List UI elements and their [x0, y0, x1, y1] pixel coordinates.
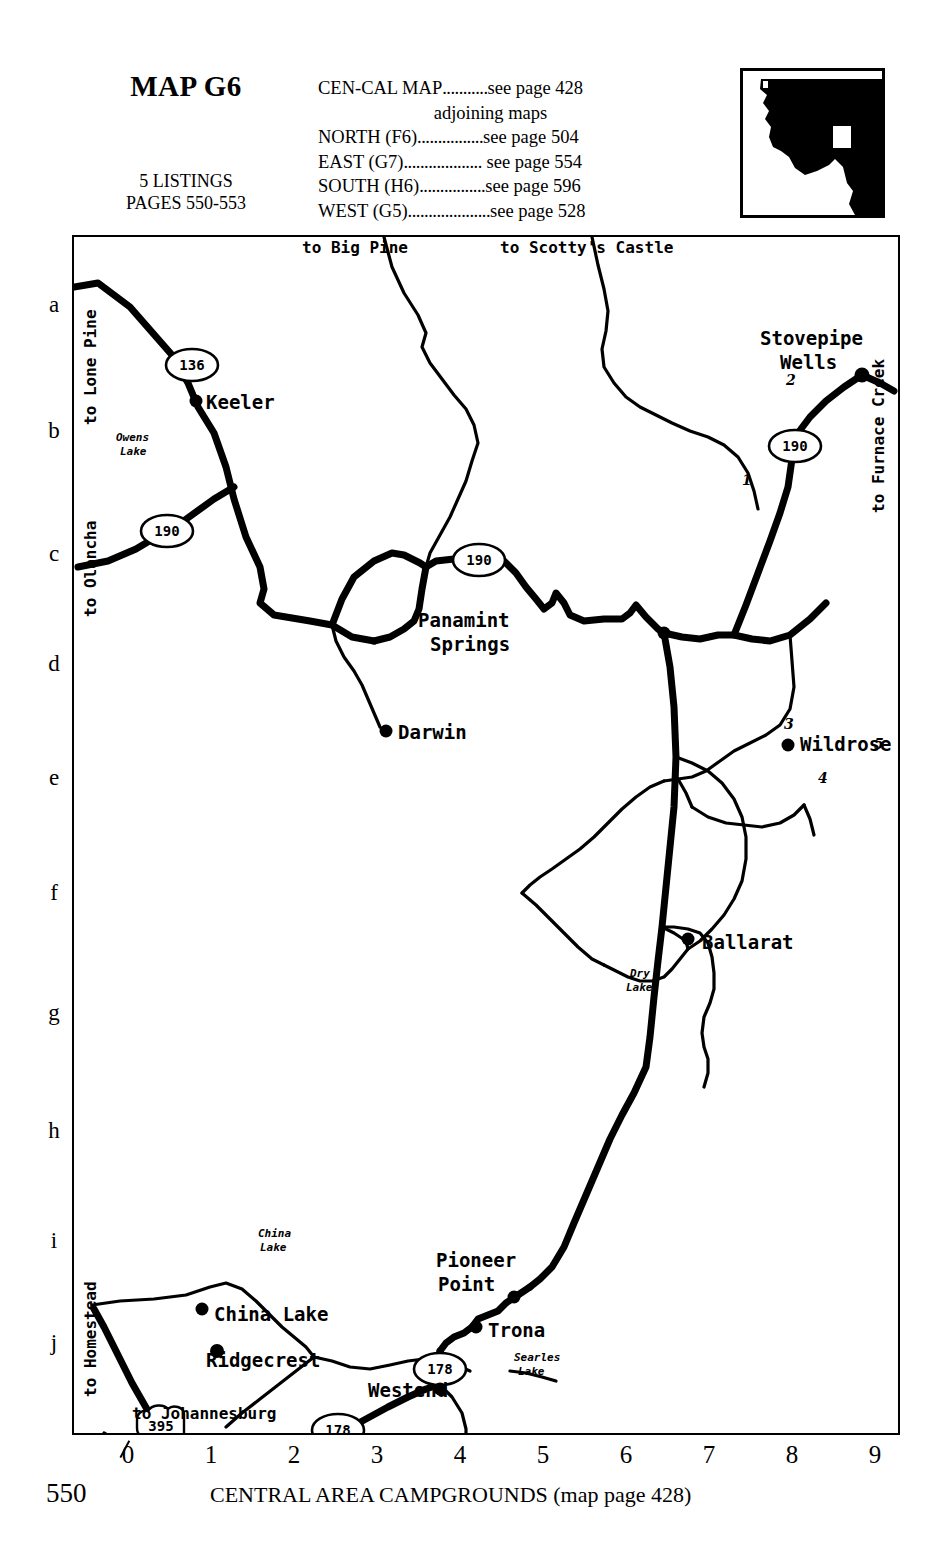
listing-number-1[interactable]: 1	[742, 472, 752, 488]
road-valley-diagonal	[522, 893, 604, 965]
water-label-searles-lake-line1: Searles	[514, 1351, 560, 1364]
road-190-panamint-springs	[504, 561, 664, 633]
page-title: MAP G6	[86, 70, 286, 103]
cencal-map-label: CEN-CAL MAP	[318, 78, 442, 98]
row-label-g: g	[42, 1000, 66, 1026]
row-label-h: h	[42, 1118, 66, 1144]
adjoining-south-row[interactable]: SOUTH (H6)................see page 596	[318, 174, 708, 199]
row-label-b: b	[42, 418, 66, 444]
route-shield-136-label: 136	[179, 357, 204, 373]
adjoining-south-dots: ................	[419, 176, 485, 196]
listing-number-4[interactable]: 4	[818, 770, 828, 786]
city-dot-keeler[interactable]	[190, 395, 203, 408]
route-shield-178-ridgecrest-label: 178	[325, 1422, 350, 1433]
city-dot-stovepipe-wells[interactable]	[855, 368, 870, 383]
road-trona-south	[440, 1327, 472, 1351]
col-label-6: 6	[611, 1441, 641, 1469]
city-dot-ballarat[interactable]	[682, 933, 695, 946]
listing-number-2[interactable]: 2	[785, 372, 796, 388]
adjoining-east-row[interactable]: EAST (G7)................... see page 55…	[318, 150, 708, 175]
column-scale: 0 1 2 3 4 5 6 7 8 9	[72, 1441, 900, 1475]
road-wildrose-southwest	[522, 781, 664, 893]
place-label-keeler: Keeler	[206, 391, 275, 413]
cencal-page-ref: see page 428	[488, 78, 584, 98]
col-label-0: 0	[113, 1441, 143, 1469]
row-label-d: d	[42, 651, 66, 677]
adjoining-north-dots: ................	[417, 127, 483, 147]
edge-label-to-furnace-creek: to Furnace Creek	[869, 359, 888, 513]
road-wildrose-east	[692, 805, 804, 827]
cencal-map-row[interactable]: CEN-CAL MAP...........see page 428	[318, 76, 708, 101]
edge-label-to-homestead: to Homestead	[81, 1281, 100, 1397]
road-136-corridor	[74, 283, 374, 641]
route-shield-178-trona-label: 178	[427, 1361, 452, 1377]
city-dot-pioneer-point[interactable]	[508, 1291, 521, 1304]
listing-number-5[interactable]: 5	[874, 736, 884, 752]
listings-pages: PAGES 550-553	[76, 192, 296, 214]
city-dot-panamint-springs[interactable]	[658, 627, 671, 640]
route-shield-190-stovepipe[interactable]: 190	[769, 430, 821, 462]
page-footer: 550 CENTRAL AREA CAMPGROUNDS (map page 4…	[0, 1478, 935, 1518]
water-label-searles-lake-line2: Lake	[518, 1365, 545, 1378]
road-to-scottys-castle	[592, 237, 758, 509]
row-label-e: e	[42, 765, 66, 791]
place-label-china-lake: China Lake	[214, 1303, 328, 1325]
road-190-stovepipe-approach	[798, 375, 862, 433]
place-label-ridgecrest: Ridgecrest	[206, 1349, 320, 1371]
edge-label-to-lone-pine: to Lone Pine	[81, 309, 100, 425]
place-label-darwin: Darwin	[398, 721, 467, 743]
adjoining-west-row[interactable]: WEST (G5)....................see page 52…	[318, 199, 708, 224]
adjoining-west-page: see page 528	[490, 201, 586, 221]
col-label-7: 7	[694, 1441, 724, 1469]
road-ballarat-loop-east	[676, 757, 746, 949]
route-shield-190-central[interactable]: 190	[453, 544, 505, 576]
water-label-owens-lake-line1: Owens	[116, 431, 149, 444]
route-shield-190-west-label: 190	[154, 523, 179, 539]
edge-label-to-johannesburg: to Johannesburg	[132, 1404, 277, 1423]
water-label-owens-lake-line2: Lake	[120, 445, 147, 458]
adjoining-west-dots: ....................	[408, 201, 491, 221]
place-label-stovepipe-wells-line1: Stovepipe	[760, 327, 863, 349]
water-label-china-lake-line2: Lake	[260, 1241, 287, 1254]
route-shield-190-stovepipe-label: 190	[782, 438, 807, 454]
col-label-9: 9	[860, 1441, 890, 1469]
edge-label-to-big-pine: to Big Pine	[302, 238, 408, 257]
listings-count: 5 LISTINGS	[76, 170, 296, 192]
route-shield-136[interactable]: 136	[166, 349, 218, 381]
water-label-dry-lake-line1: Dry	[629, 967, 650, 980]
col-label-2: 2	[279, 1441, 309, 1469]
row-label-j: j	[42, 1330, 66, 1356]
adjoining-north-page: see page 504	[483, 127, 579, 147]
route-shield-190-west[interactable]: 190	[141, 515, 193, 547]
city-dot-darwin[interactable]	[380, 725, 393, 738]
listing-number-3[interactable]: 3	[784, 716, 794, 732]
place-label-ballarat: Ballarat	[702, 931, 794, 953]
road-wildrose-spur	[678, 779, 692, 807]
adjoining-east-dots: ...................	[403, 152, 481, 172]
row-label-a: a	[42, 292, 66, 318]
place-label-panamint-springs-line2: Springs	[430, 633, 510, 655]
route-shield-178-ridgecrest[interactable]: 178	[312, 1414, 364, 1433]
road-to-big-pine	[384, 237, 478, 567]
inset-map-svg	[743, 71, 882, 215]
cencal-dots: ...........	[442, 78, 487, 98]
adjoining-maps-index: CEN-CAL MAP...........see page 428 adjoi…	[318, 76, 708, 223]
edge-label-to-scottys-castle: to Scotty's Castle	[500, 238, 673, 257]
place-label-pioneer-point-line1: Pioneer	[436, 1249, 516, 1271]
adjoining-north-row[interactable]: NORTH (F6)................see page 504	[318, 125, 708, 150]
footer-page-number: 550	[46, 1478, 87, 1509]
city-dot-wildrose[interactable]	[782, 739, 795, 752]
adjoining-north-label: NORTH (F6)	[318, 127, 417, 147]
map-canvas[interactable]: 136 190 190 190 178 178 395	[72, 235, 900, 1435]
city-dot-china-lake[interactable]	[196, 1303, 209, 1316]
map-svg: 136 190 190 190 178 178 395	[74, 237, 898, 1433]
water-label-dry-lake-line2: Lake	[626, 981, 653, 994]
row-label-c: c	[42, 541, 66, 567]
california-locator-inset	[740, 68, 885, 218]
col-label-5: 5	[528, 1441, 558, 1469]
adjoining-south-label: SOUTH (H6)	[318, 176, 419, 196]
adjoining-west-label: WEST (G5)	[318, 201, 408, 221]
place-label-stovepipe-wells-line2: Wells	[780, 351, 837, 373]
adjoining-south-page: see page 596	[485, 176, 581, 196]
city-dot-trona[interactable]	[470, 1321, 483, 1334]
